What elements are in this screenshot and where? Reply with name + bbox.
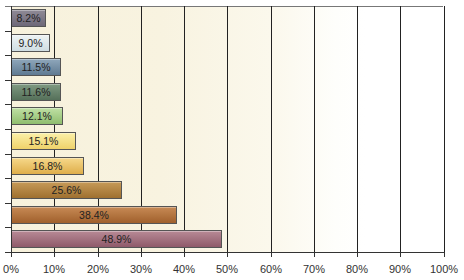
y-tick xyxy=(5,154,12,155)
x-tick xyxy=(444,252,445,257)
x-tick-label: 20% xyxy=(78,263,118,275)
bar: 9.0% xyxy=(11,34,50,52)
x-tick-label: 90% xyxy=(380,263,420,275)
bar-value-label: 48.9% xyxy=(102,233,132,245)
gridline xyxy=(314,6,315,252)
bar-value-label: 16.8% xyxy=(33,160,63,172)
gridline xyxy=(184,6,185,252)
x-tick-label: 80% xyxy=(337,263,377,275)
bar-value-label: 9.0% xyxy=(19,37,43,49)
bar-value-label: 8.2% xyxy=(17,12,41,24)
gridline xyxy=(357,6,358,252)
bar-value-label: 15.1% xyxy=(29,135,59,147)
x-tick-label: 0% xyxy=(0,263,31,275)
x-tick xyxy=(314,252,315,257)
x-tick xyxy=(54,252,55,257)
bar: 25.6% xyxy=(11,181,122,199)
x-tick xyxy=(141,252,142,257)
bar: 16.8% xyxy=(11,157,84,175)
x-tick-label: 100% xyxy=(424,263,464,275)
y-tick xyxy=(5,178,12,179)
horizontal-bar-chart: 8.2%9.0%11.5%11.6%12.1%15.1%16.8%25.6%38… xyxy=(0,0,464,280)
y-tick xyxy=(5,227,12,228)
plot-top-border xyxy=(5,6,443,7)
bar-value-label: 11.6% xyxy=(22,86,51,98)
bar-value-label: 11.5% xyxy=(22,61,51,73)
x-tick-label: 10% xyxy=(34,263,74,275)
bar: 11.6% xyxy=(11,83,61,101)
bar: 38.4% xyxy=(11,206,177,224)
y-tick xyxy=(5,55,12,56)
x-tick xyxy=(271,252,272,257)
bar: 8.2% xyxy=(11,9,46,27)
y-tick xyxy=(5,252,12,253)
x-tick xyxy=(184,252,185,257)
bar-value-label: 25.6% xyxy=(52,184,82,196)
y-tick xyxy=(5,31,12,32)
bar: 12.1% xyxy=(11,107,63,125)
x-tick-label: 30% xyxy=(121,263,161,275)
x-tick-label: 40% xyxy=(164,263,204,275)
bar: 11.5% xyxy=(11,58,61,76)
x-tick-label: 70% xyxy=(294,263,334,275)
gridline xyxy=(227,6,228,252)
x-tick xyxy=(400,252,401,257)
x-tick xyxy=(357,252,358,257)
gridline xyxy=(271,6,272,252)
y-tick xyxy=(5,80,12,81)
gridline xyxy=(400,6,401,252)
bar: 48.9% xyxy=(11,230,222,248)
x-tick-label: 60% xyxy=(251,263,291,275)
x-tick xyxy=(98,252,99,257)
bar: 15.1% xyxy=(11,132,76,150)
x-tick-label: 50% xyxy=(207,263,247,275)
y-axis xyxy=(11,6,12,256)
y-tick xyxy=(5,104,12,105)
x-tick xyxy=(227,252,228,257)
y-tick xyxy=(5,203,12,204)
bar-value-label: 12.1% xyxy=(22,110,52,122)
bar-value-label: 38.4% xyxy=(79,209,109,221)
gridline xyxy=(444,6,445,252)
y-tick xyxy=(5,129,12,130)
